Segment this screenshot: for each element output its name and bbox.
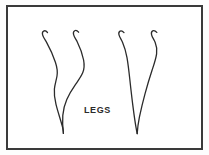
illustration-frame: LEGS	[6, 5, 203, 150]
left-leg-inner-stroke	[63, 30, 85, 133]
legs-caption-label: LEGS	[84, 105, 111, 115]
right-leg-pair-group	[119, 31, 157, 134]
line-drawing-svg	[16, 14, 209, 155]
right-leg-inner-stroke	[137, 31, 157, 134]
left-leg-outer-stroke	[42, 31, 63, 134]
left-leg-pair-group	[42, 30, 84, 133]
drawing-canvas	[16, 14, 209, 155]
figure-root: LEGS	[0, 0, 209, 155]
right-leg-outer-stroke	[119, 31, 137, 134]
